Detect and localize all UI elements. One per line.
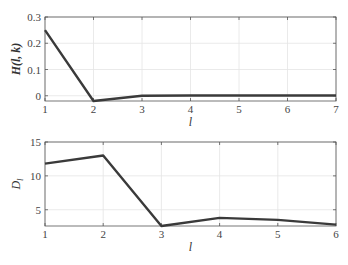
y-tick-label: 0.1 <box>27 64 41 76</box>
chart-2: 12345651015lDl <box>9 136 339 254</box>
x-tick-label: 4 <box>217 228 223 240</box>
x-axis-label: l <box>189 240 193 254</box>
axes-box <box>45 142 336 226</box>
x-tick-label: 7 <box>333 103 339 115</box>
data-line <box>45 156 336 226</box>
x-tick-label: 2 <box>91 103 97 115</box>
x-tick-label: 5 <box>236 103 242 115</box>
x-tick-label: 6 <box>333 228 339 240</box>
x-tick-label: 1 <box>42 103 48 115</box>
chart-1: 123456700.10.20.3lH(l, k) <box>9 11 339 129</box>
figure: 123456700.10.20.3lH(l, k)12345651015lDl <box>0 0 348 265</box>
y-tick-label: 10 <box>30 170 42 182</box>
y-tick-label: 0.3 <box>27 11 41 23</box>
y-axis-label: Dl <box>9 178 25 191</box>
y-tick-label: 15 <box>30 136 42 148</box>
x-tick-label: 6 <box>285 103 291 115</box>
x-tick-label: 1 <box>42 228 48 240</box>
x-tick-label: 3 <box>139 103 145 115</box>
y-axis-label: H(l, k) <box>9 43 23 77</box>
x-axis-label: l <box>189 115 193 129</box>
x-tick-label: 5 <box>275 228 281 240</box>
y-tick-label: 0.2 <box>27 37 41 49</box>
x-tick-label: 4 <box>188 103 194 115</box>
x-tick-label: 2 <box>100 228 106 240</box>
x-tick-label: 3 <box>159 228 165 240</box>
y-tick-label: 0 <box>36 90 42 102</box>
y-tick-label: 5 <box>36 204 42 216</box>
